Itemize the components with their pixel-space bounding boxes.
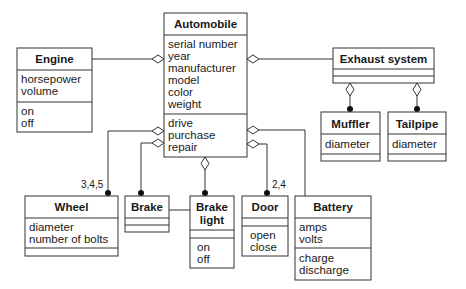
- class-name: Brake: [131, 201, 163, 213]
- aggregation-diamond-icon: [201, 157, 209, 170]
- operation: off: [21, 117, 34, 129]
- attribute: manufacturer: [168, 62, 236, 74]
- operation: on: [197, 241, 210, 253]
- aggregation-diamond-icon: [346, 83, 354, 96]
- class-name: light: [200, 214, 224, 226]
- aggregation-diamond-icon: [247, 140, 259, 148]
- class-name: Exhaust system: [340, 53, 428, 65]
- aggregation-diamond-icon: [413, 83, 421, 96]
- class-name: Muffler: [331, 118, 370, 130]
- operation: purchase: [168, 129, 215, 141]
- operation: discharge: [299, 264, 349, 276]
- class-name: Door: [252, 201, 279, 213]
- association-end-dot-icon: [105, 190, 111, 196]
- operation: open: [250, 229, 276, 241]
- class-brake-light[interactable]: Brake light on off: [190, 196, 234, 268]
- attribute: diameter: [29, 221, 74, 233]
- operation: close: [250, 241, 277, 253]
- aggregation-diamond-icon: [152, 55, 164, 63]
- class-name: Automobile: [174, 18, 237, 30]
- attribute: weight: [167, 98, 202, 110]
- class-name: Tailpipe: [396, 118, 439, 130]
- wheel-multiplicity-label: 3,4,5: [81, 179, 104, 190]
- class-tailpipe[interactable]: Tailpipe diameter: [388, 112, 446, 161]
- brake-automobile-line: [141, 143, 152, 193]
- class-name: Brake: [196, 201, 228, 213]
- operation: on: [21, 105, 34, 117]
- class-battery[interactable]: Battery amps volts charge discharge: [295, 196, 371, 280]
- class-exhaust-system[interactable]: Exhaust system: [333, 48, 434, 83]
- association-end-dot-icon: [202, 190, 208, 196]
- operation: repair: [168, 141, 198, 153]
- aggregation-diamond-icon: [247, 55, 259, 63]
- attribute: serial number: [168, 38, 238, 50]
- attribute: color: [168, 86, 193, 98]
- class-name: Wheel: [55, 201, 89, 213]
- class-name: Engine: [35, 53, 73, 65]
- door-automobile-line: [259, 144, 267, 193]
- attribute: number of bolts: [29, 233, 109, 245]
- association-end-dot-icon: [138, 190, 144, 196]
- operation: drive: [168, 117, 193, 129]
- operation: charge: [299, 252, 334, 264]
- attribute: amps: [299, 221, 327, 233]
- operation: off: [197, 253, 210, 265]
- attribute: year: [168, 50, 191, 62]
- attribute: volume: [21, 85, 58, 97]
- attribute: horsepower: [21, 73, 81, 85]
- class-door[interactable]: Door open close: [242, 196, 288, 256]
- class-wheel[interactable]: Wheel diameter number of bolts: [25, 196, 118, 256]
- uml-class-diagram: 3,4,5 2,4 Automobile serial number year …: [0, 0, 466, 289]
- attribute: diameter: [325, 138, 370, 150]
- class-brake[interactable]: Brake: [125, 196, 169, 232]
- attribute: volts: [299, 233, 323, 245]
- class-name: Battery: [313, 201, 353, 213]
- class-automobile[interactable]: Automobile serial number year manufactur…: [164, 13, 247, 157]
- wheel-automobile-line: [108, 131, 152, 193]
- door-multiplicity-label: 2,4: [272, 179, 286, 190]
- class-engine[interactable]: Engine horsepower volume on off: [17, 48, 92, 132]
- aggregation-diamond-icon: [247, 126, 259, 134]
- association-end-dot-icon: [264, 190, 270, 196]
- attribute: diameter: [392, 138, 437, 150]
- association-end-dot-icon: [414, 106, 420, 112]
- aggregation-diamond-icon: [152, 127, 164, 135]
- class-muffler[interactable]: Muffler diameter: [321, 112, 380, 161]
- aggregation-diamond-icon: [152, 139, 164, 147]
- attribute: model: [168, 74, 199, 86]
- association-end-dot-icon: [347, 106, 353, 112]
